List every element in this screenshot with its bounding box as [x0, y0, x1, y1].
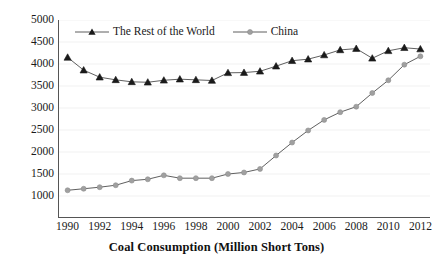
x-axis-tick-label: 2006 [313, 221, 336, 233]
y-axis-tick-label: 5000 [20, 14, 54, 26]
x-axis-tick-label: 2008 [345, 221, 368, 233]
plot-area [58, 20, 430, 218]
x-axis-tick-label: 1990 [56, 221, 79, 233]
x-axis-tick-label: 2000 [216, 221, 239, 233]
data-point-marker [369, 55, 376, 61]
y-axis-tick-label: 2500 [20, 124, 54, 136]
data-point-marker [64, 54, 71, 60]
data-point-marker [418, 54, 423, 59]
triangle-marker [75, 26, 109, 38]
y-axis-tick-label: 2000 [20, 146, 54, 158]
x-axis-title: Coal Consumption (Million Short Tons) [0, 240, 433, 255]
data-point-marker [225, 172, 230, 177]
data-point-marker [96, 74, 103, 80]
x-axis-tick-label: 2010 [377, 221, 400, 233]
data-point-marker [386, 78, 391, 83]
data-point-marker [242, 170, 247, 175]
data-point-marker [258, 166, 263, 171]
y-axis-tick-label: 3500 [20, 80, 54, 92]
x-axis-tick-labels: 1990199219941996199820002002200420062008… [0, 221, 433, 237]
x-axis-tick-label: 2012 [409, 221, 432, 233]
data-point-marker [193, 176, 198, 181]
data-point-marker [354, 104, 359, 109]
data-point-marker [306, 128, 311, 133]
chart-legend: The Rest of the WorldChina [75, 24, 298, 40]
data-point-marker [338, 110, 343, 115]
y-axis-tick-label: 1500 [20, 168, 54, 180]
data-point-marker [322, 117, 327, 122]
data-point-marker [402, 62, 407, 67]
data-point-marker [97, 185, 102, 190]
x-axis-tick-label: 1998 [184, 221, 207, 233]
data-point-marker [290, 140, 295, 145]
data-point-marker [176, 76, 183, 82]
data-point-marker [177, 176, 182, 181]
data-point-marker [401, 44, 408, 50]
legend-item-2[interactable]: China [233, 26, 298, 38]
data-point-marker [81, 186, 86, 191]
x-axis-tick-label: 1996 [152, 221, 175, 233]
data-point-marker [370, 91, 375, 96]
data-point-marker [209, 176, 214, 181]
series-line [68, 48, 421, 83]
x-axis-tick-label: 2002 [249, 221, 272, 233]
data-point-marker [80, 67, 87, 73]
data-point-marker [65, 188, 70, 193]
x-axis-tick-label: 2004 [281, 221, 304, 233]
circle-marker [233, 26, 267, 38]
legend-item-1[interactable]: The Rest of the World [75, 26, 215, 38]
x-axis-tick-label: 1994 [120, 221, 143, 233]
legend-label: China [271, 26, 298, 38]
data-point-marker [145, 177, 150, 182]
y-axis-tick-label: 4500 [20, 36, 54, 48]
y-axis-tick-label: 1000 [20, 190, 54, 202]
x-axis-tick-label: 1992 [88, 221, 111, 233]
data-point-marker [161, 173, 166, 178]
data-point-marker [113, 183, 118, 188]
legend-label: The Rest of the World [113, 26, 215, 38]
data-point-marker [353, 45, 360, 51]
y-axis-tick-label: 4000 [20, 58, 54, 70]
data-point-marker [129, 178, 134, 183]
series-1 [64, 44, 424, 85]
data-point-marker [274, 153, 279, 158]
line-chart-canvas [58, 20, 430, 218]
y-axis-tick-label: 3000 [20, 102, 54, 114]
chart-figure: 100015002000250030003500400045005000 The… [0, 0, 433, 272]
